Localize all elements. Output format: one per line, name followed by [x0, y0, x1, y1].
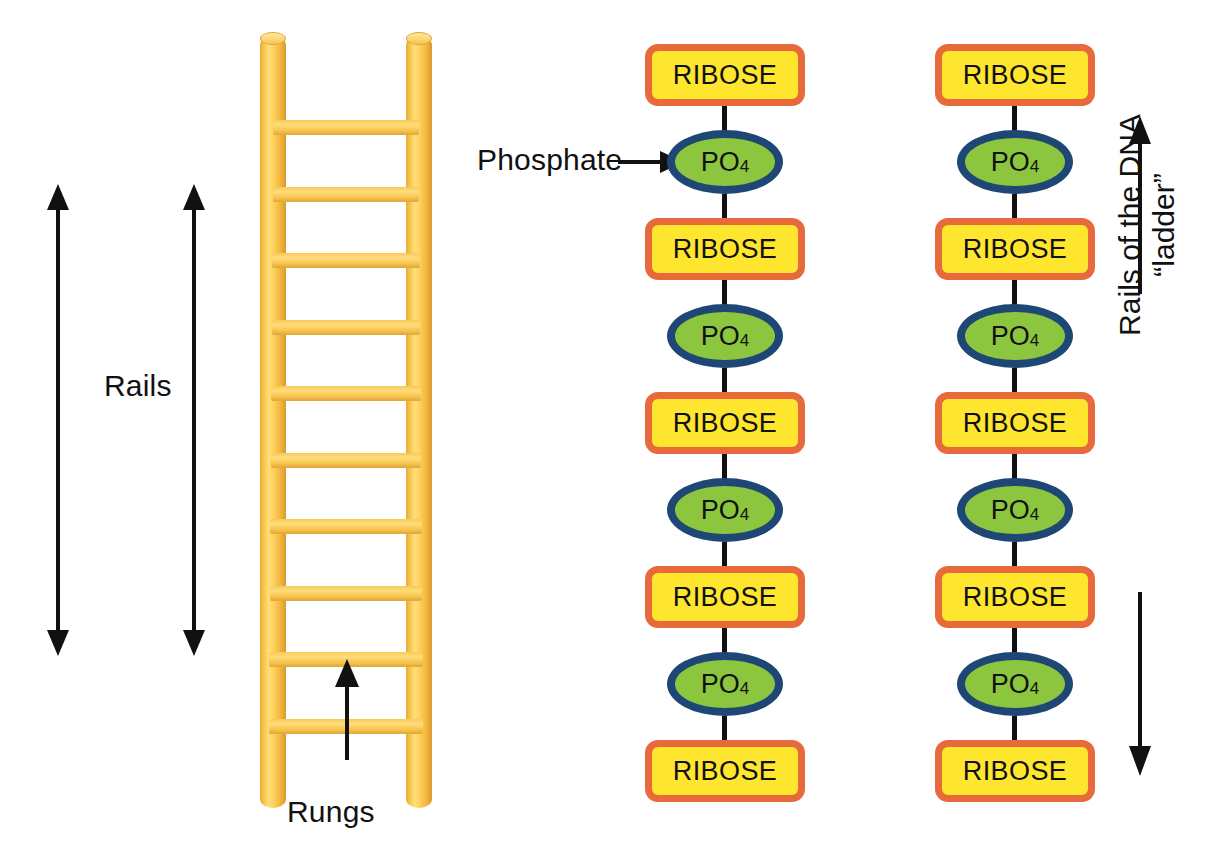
ladder-rail-cap-left [260, 32, 286, 45]
rails-label: Rails [104, 369, 172, 403]
rails-double-arrow-inner [166, 180, 366, 660]
phosphate-node: PO4 [957, 130, 1073, 194]
ribose-node: RIBOSE [935, 566, 1095, 628]
phosphate-node: PO4 [957, 304, 1073, 368]
rungs-arrow [327, 655, 387, 765]
ribose-node: RIBOSE [645, 566, 805, 628]
phosphate-node: PO4 [667, 304, 783, 368]
dna-backbone-chain-left: RIBOSEPO4RIBOSEPO4RIBOSEPO4RIBOSEPO4RIBO… [625, 0, 825, 862]
ribose-node: RIBOSE [935, 218, 1095, 280]
rungs-label: Rungs [287, 795, 375, 829]
ribose-node: RIBOSE [645, 218, 805, 280]
ribose-node: RIBOSE [935, 392, 1095, 454]
phosphate-node: PO4 [667, 652, 783, 716]
ribose-node: RIBOSE [645, 44, 805, 106]
phosphate-node: PO4 [667, 478, 783, 542]
phosphate-node: PO4 [957, 478, 1073, 542]
dna-rails-arrow-down [1118, 588, 1168, 783]
ladder-rail-right [406, 36, 432, 808]
dna-rails-label-line1: Rails of the DNA [1113, 114, 1147, 336]
phosphate-label: Phosphate [477, 143, 622, 177]
ribose-node: RIBOSE [645, 740, 805, 802]
dna-backbone-chain-right: RIBOSEPO4RIBOSEPO4RIBOSEPO4RIBOSEPO4RIBO… [915, 0, 1115, 862]
phosphate-node: PO4 [957, 652, 1073, 716]
ribose-node: RIBOSE [645, 392, 805, 454]
dna-rails-label-line2: “ladder” [1147, 173, 1181, 276]
ribose-node: RIBOSE [935, 740, 1095, 802]
dna-rails-label: Rails of the DNA “ladder” [1112, 80, 1182, 370]
ladder-rail-cap-right [406, 32, 432, 45]
diagram-canvas: Rails Rungs Phosphate RIBOSEPO4RIBOSEPO4… [0, 0, 1216, 862]
ribose-node: RIBOSE [935, 44, 1095, 106]
phosphate-node: PO4 [667, 130, 783, 194]
ladder-rung [273, 120, 419, 135]
